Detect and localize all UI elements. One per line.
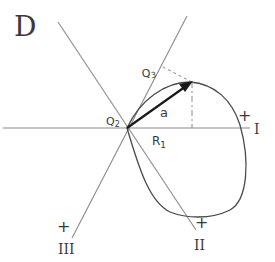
axis-III-label: III <box>58 241 75 257</box>
projection-dash-to-Q3 <box>161 66 192 82</box>
vector-a-arrow <box>127 84 189 128</box>
axis-III-plus: + <box>57 217 70 236</box>
projection-label: Q3 <box>141 65 157 81</box>
axis-II-label: II <box>194 237 205 253</box>
radius-label: R1 <box>152 134 166 150</box>
axis-II-plus: + <box>195 213 208 232</box>
axis-I-plus: + <box>238 106 251 125</box>
vector-loop-curve <box>127 82 246 217</box>
vector-label: a <box>160 105 168 120</box>
vectorcardiogram-diagram: D Q2 Q3 a R1 + I + II + III <box>0 0 275 262</box>
panel-label: D <box>14 10 36 43</box>
axis-II-line <box>58 22 196 230</box>
origin-label: Q2 <box>106 115 120 129</box>
axis-I-label: I <box>254 121 260 137</box>
